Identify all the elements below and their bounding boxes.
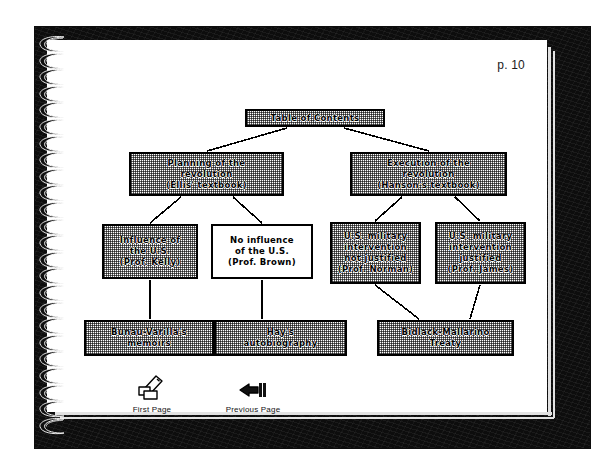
notebook-screen: p. 10 xyxy=(0,0,614,472)
tree-node-label: Bidlack-Mallarino Treaty xyxy=(398,327,492,349)
tree-node-label: No influence of the U.S. (Prof. Brown) xyxy=(225,235,299,268)
table-of-contents-tree: Table of Contents Planning of the revolu… xyxy=(47,40,547,412)
tree-node-intervention-justified[interactable]: U.S. military intervention justified (Pr… xyxy=(435,222,526,284)
tree-node-label: Hay's autobiography xyxy=(240,327,320,349)
edge-execution-notjustified xyxy=(375,197,402,221)
hand-writing-icon xyxy=(109,372,195,402)
edge-execution-justified xyxy=(455,197,480,221)
previous-page-button[interactable]: Previous Page xyxy=(210,372,296,414)
edge-planning-influence xyxy=(150,197,181,223)
tree-node-label: Planning of the revolution (Ellis' textb… xyxy=(163,158,250,191)
first-page-button[interactable]: First Page xyxy=(109,372,195,414)
tree-node-planning-of-the-revolution[interactable]: Planning of the revolution (Ellis' textb… xyxy=(129,152,284,196)
tree-node-label: Bunau-Varilla's memoirs xyxy=(108,327,190,349)
tree-node-execution-of-the-revolution[interactable]: Execution of the revolution (Hanson's te… xyxy=(350,152,507,196)
tree-node-hay-autobiography[interactable]: Hay's autobiography xyxy=(214,320,347,356)
tree-node-label: Execution of the revolution (Hanson's te… xyxy=(374,158,483,191)
tree-node-label: Table of Contents xyxy=(268,113,363,124)
edge-toc-execution xyxy=(344,128,429,151)
hand-pointing-left-icon xyxy=(210,372,296,402)
first-page-label: First Page xyxy=(109,405,195,414)
tree-node-label: U.S. military intervention justified (Pr… xyxy=(445,231,517,275)
tree-node-label: Influence of the U.S. (Prof. Kelly) xyxy=(117,235,184,268)
page-edge-right-outer xyxy=(548,47,551,416)
tree-node-no-influence-of-the-us[interactable]: No influence of the U.S. (Prof. Brown) xyxy=(211,224,313,279)
previous-page-label: Previous Page xyxy=(210,405,296,414)
tree-node-label: U.S. military intervention not justified… xyxy=(335,231,416,275)
edge-justified-bidlack xyxy=(470,285,480,319)
tree-node-intervention-not-justified[interactable]: U.S. military intervention not justified… xyxy=(330,222,421,284)
tree-node-table-of-contents[interactable]: Table of Contents xyxy=(245,109,385,127)
page-edge-bottom-inner xyxy=(60,417,554,419)
edge-notjustified-bidlack xyxy=(375,285,419,319)
page-edge-right-inner xyxy=(553,51,555,418)
edge-planning-noinfluence xyxy=(233,197,262,223)
notebook-page: p. 10 xyxy=(47,40,547,412)
tree-node-influence-of-the-us[interactable]: Influence of the U.S. (Prof. Kelly) xyxy=(102,224,198,279)
tree-node-bidlack-mallarino-treaty[interactable]: Bidlack-Mallarino Treaty xyxy=(377,320,514,356)
tree-node-bunau-varilla-memoirs[interactable]: Bunau-Varilla's memoirs xyxy=(84,320,214,356)
edge-toc-planning xyxy=(207,128,287,151)
